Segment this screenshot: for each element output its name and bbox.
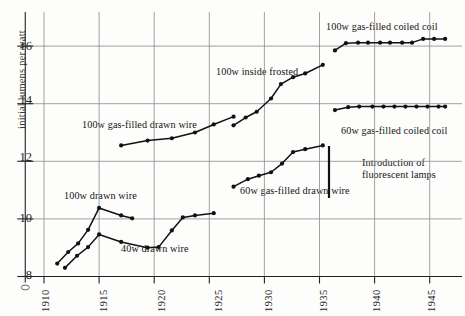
data-point (378, 41, 382, 45)
data-point (356, 41, 360, 45)
series-line (65, 213, 214, 268)
data-point (291, 150, 295, 154)
data-point (280, 162, 284, 166)
data-point (170, 228, 174, 232)
data-point (291, 75, 295, 79)
data-point (231, 115, 235, 119)
data-point (303, 71, 307, 75)
data-point (421, 37, 425, 41)
data-point (193, 130, 197, 134)
data-point (246, 177, 250, 181)
data-point (75, 254, 79, 258)
data-point (333, 108, 337, 112)
data-point (333, 48, 337, 52)
data-point (97, 232, 101, 236)
series-line (121, 117, 233, 146)
data-point (257, 174, 261, 178)
data-point (231, 123, 235, 127)
data-point (357, 104, 361, 108)
fluorescent-lamp-marker-bracket (21, 146, 329, 290)
data-series-group (55, 37, 447, 270)
data-point (63, 266, 67, 270)
axis-lines (17, 12, 462, 284)
data-point (269, 170, 273, 174)
data-point (443, 104, 447, 108)
data-point (321, 63, 325, 67)
data-point (244, 115, 248, 119)
data-point (212, 122, 216, 126)
data-point (231, 185, 235, 189)
data-point (410, 41, 414, 45)
data-point (443, 37, 447, 41)
series-40w-drawn-wire (63, 211, 216, 270)
data-point (366, 41, 370, 45)
data-point (145, 138, 149, 142)
data-point (321, 143, 325, 147)
grid-lines (25, 12, 462, 277)
data-point (55, 261, 59, 265)
series-100w-inside-frosted (231, 63, 324, 128)
data-point (303, 147, 307, 151)
data-point (370, 104, 374, 108)
data-point (76, 241, 80, 245)
data-point (119, 143, 123, 147)
data-point (392, 104, 396, 108)
plot-area (0, 0, 465, 316)
chart-figure: initial lumens per watt 16 14 12 10 8 19… (0, 0, 465, 316)
data-point (255, 110, 259, 114)
data-point (344, 41, 348, 45)
series-60w-gas-filled-drawn-wire (231, 143, 324, 188)
data-point (381, 104, 385, 108)
data-point (86, 245, 90, 249)
data-point (432, 37, 436, 41)
origin-mark (21, 285, 29, 290)
data-point (403, 104, 407, 108)
series-100w-drawn-wire (55, 206, 134, 266)
data-point (145, 246, 149, 250)
data-point (400, 41, 404, 45)
data-point (130, 216, 134, 220)
data-point (119, 240, 123, 244)
data-point (157, 245, 161, 249)
data-point (193, 213, 197, 217)
data-point (119, 213, 123, 217)
data-point (181, 215, 185, 219)
data-point (279, 82, 283, 86)
data-point (388, 41, 392, 45)
data-point (86, 228, 90, 232)
data-point (212, 211, 216, 215)
data-point (170, 136, 174, 140)
data-point (269, 96, 273, 100)
data-point (97, 206, 101, 210)
data-point (425, 104, 429, 108)
data-point (414, 104, 418, 108)
data-point (66, 250, 70, 254)
data-point (436, 104, 440, 108)
series-100w-gas-filled-drawn-wire (119, 115, 236, 148)
data-point (346, 105, 350, 109)
